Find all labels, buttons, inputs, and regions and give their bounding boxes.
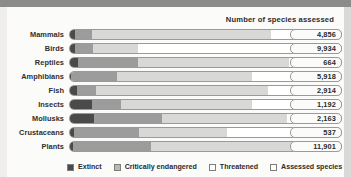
chart-plate: Number of species assessed Mammals4,856B… <box>7 7 344 177</box>
value-box: 2,914 <box>290 85 342 96</box>
segment-critically-endangered <box>94 114 162 123</box>
bar-row-label-crustaceans: Crustaceans <box>7 128 69 137</box>
column-header-species-assessed: Number of species assessed <box>226 15 334 24</box>
bar-track: 664 <box>69 57 342 68</box>
legend-item[interactable]: Assessed species <box>270 163 342 171</box>
segment-critically-endangered <box>74 128 139 137</box>
legend-swatch-critically-endangered-icon <box>114 164 121 171</box>
bar-row: Birds9,934 <box>7 41 344 55</box>
bar-track: 1,192 <box>69 99 342 110</box>
segment-extinct <box>70 114 94 123</box>
bar-track: 9,934 <box>69 43 342 54</box>
bar-rows: Mammals4,856Birds9,934Reptiles664Amphibi… <box>7 27 344 153</box>
top-band <box>0 0 351 7</box>
bar-row: Reptiles664 <box>7 55 344 69</box>
legend-label: Critically endangered <box>125 163 197 171</box>
bar-track: 537 <box>69 127 342 138</box>
chart-legend: ExtinctCritically endangeredThreatenedAs… <box>7 163 344 171</box>
segment-threatened <box>96 86 268 95</box>
bar-row: Mollusks2,163 <box>7 111 344 125</box>
value-box: 1,192 <box>290 99 342 110</box>
bar-row-label-fish: Fish <box>7 86 69 95</box>
segment-critically-endangered <box>75 44 93 53</box>
right-margin <box>344 7 351 177</box>
bar-row-label-mollusks: Mollusks <box>7 114 69 123</box>
legend-item[interactable]: Extinct <box>67 163 102 171</box>
legend-swatch-extinct-icon <box>67 164 74 171</box>
legend-label: Extinct <box>78 163 102 171</box>
segment-critically-endangered <box>75 30 91 39</box>
value-box: 9,934 <box>290 43 342 54</box>
segment-extinct <box>70 86 77 95</box>
segment-threatened <box>162 114 287 123</box>
bar-track: 2,163 <box>69 113 342 124</box>
bar-row-label-mammals: Mammals <box>7 30 69 39</box>
segment-extinct <box>70 100 92 109</box>
legend-item[interactable]: Critically endangered <box>114 163 197 171</box>
bar-row-label-reptiles: Reptiles <box>7 58 69 67</box>
legend-label: Assessed species <box>281 163 342 171</box>
bar-row: Crustaceans537 <box>7 125 344 139</box>
bar-row-label-insects: Insects <box>7 100 69 109</box>
segment-threatened <box>138 58 290 67</box>
legend-swatch-threatened-icon <box>209 164 216 171</box>
bar-track: 2,914 <box>69 85 342 96</box>
value-box: 664 <box>290 57 342 68</box>
segment-critically-endangered <box>92 100 122 109</box>
segment-threatened <box>93 44 138 53</box>
legend-swatch-assessed-species-icon <box>270 164 277 171</box>
bar-row-label-plants: Plants <box>7 142 69 151</box>
bar-row-label-amphibians: Amphibians <box>7 72 69 81</box>
value-box: 11,901 <box>290 141 342 152</box>
legend-item[interactable]: Threatened <box>209 163 258 171</box>
segment-threatened <box>117 72 251 81</box>
segment-threatened <box>92 30 271 39</box>
value-box: 537 <box>290 127 342 138</box>
bar-row: Insects1,192 <box>7 97 344 111</box>
bar-track: 11,901 <box>69 141 342 152</box>
bar-track: 5,918 <box>69 71 342 82</box>
segment-extinct <box>70 58 78 67</box>
bar-row: Mammals4,856 <box>7 27 344 41</box>
segment-critically-endangered <box>77 86 96 95</box>
bar-row: Plants11,901 <box>7 139 344 153</box>
bar-row-label-birds: Birds <box>7 44 69 53</box>
segment-critically-endangered <box>71 72 117 81</box>
value-box: 5,918 <box>290 71 342 82</box>
value-box: 4,856 <box>290 29 342 40</box>
bar-row: Fish2,914 <box>7 83 344 97</box>
bar-row: Amphibians5,918 <box>7 69 344 83</box>
value-box: 2,163 <box>290 113 342 124</box>
legend-label: Threatened <box>220 163 258 171</box>
segment-threatened <box>121 100 251 109</box>
left-margin <box>0 7 7 177</box>
segment-critically-endangered <box>73 142 152 151</box>
bar-track: 4,856 <box>69 29 342 40</box>
segment-critically-endangered <box>78 58 138 67</box>
segment-threatened <box>139 128 227 137</box>
chart-page: Number of species assessed Mammals4,856B… <box>0 0 351 177</box>
